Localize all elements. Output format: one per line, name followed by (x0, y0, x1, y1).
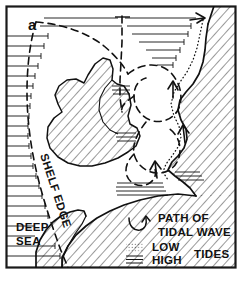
deep-sea-label-line1: DEEP (16, 221, 49, 233)
legend-path-label-line1: PATH OF (158, 212, 209, 224)
legend-tides-label: TIDES (194, 248, 229, 260)
legend-low-label: LOW (152, 241, 180, 253)
deep-sea-label-line2: SEA (16, 235, 41, 247)
legend-high-label: HIGH (152, 254, 182, 266)
legend-path-label-line2: TIDAL WAVE (158, 226, 231, 238)
legend-low-tide-swatch (126, 242, 143, 252)
figure-panel: a SHELF EDGE DEEP SEA PATH OF TIDAL WAVE… (0, 0, 242, 287)
tidal-map-figure: a SHELF EDGE DEEP SEA PATH OF TIDAL WAVE… (0, 0, 242, 287)
panel-letter: a (28, 16, 37, 33)
